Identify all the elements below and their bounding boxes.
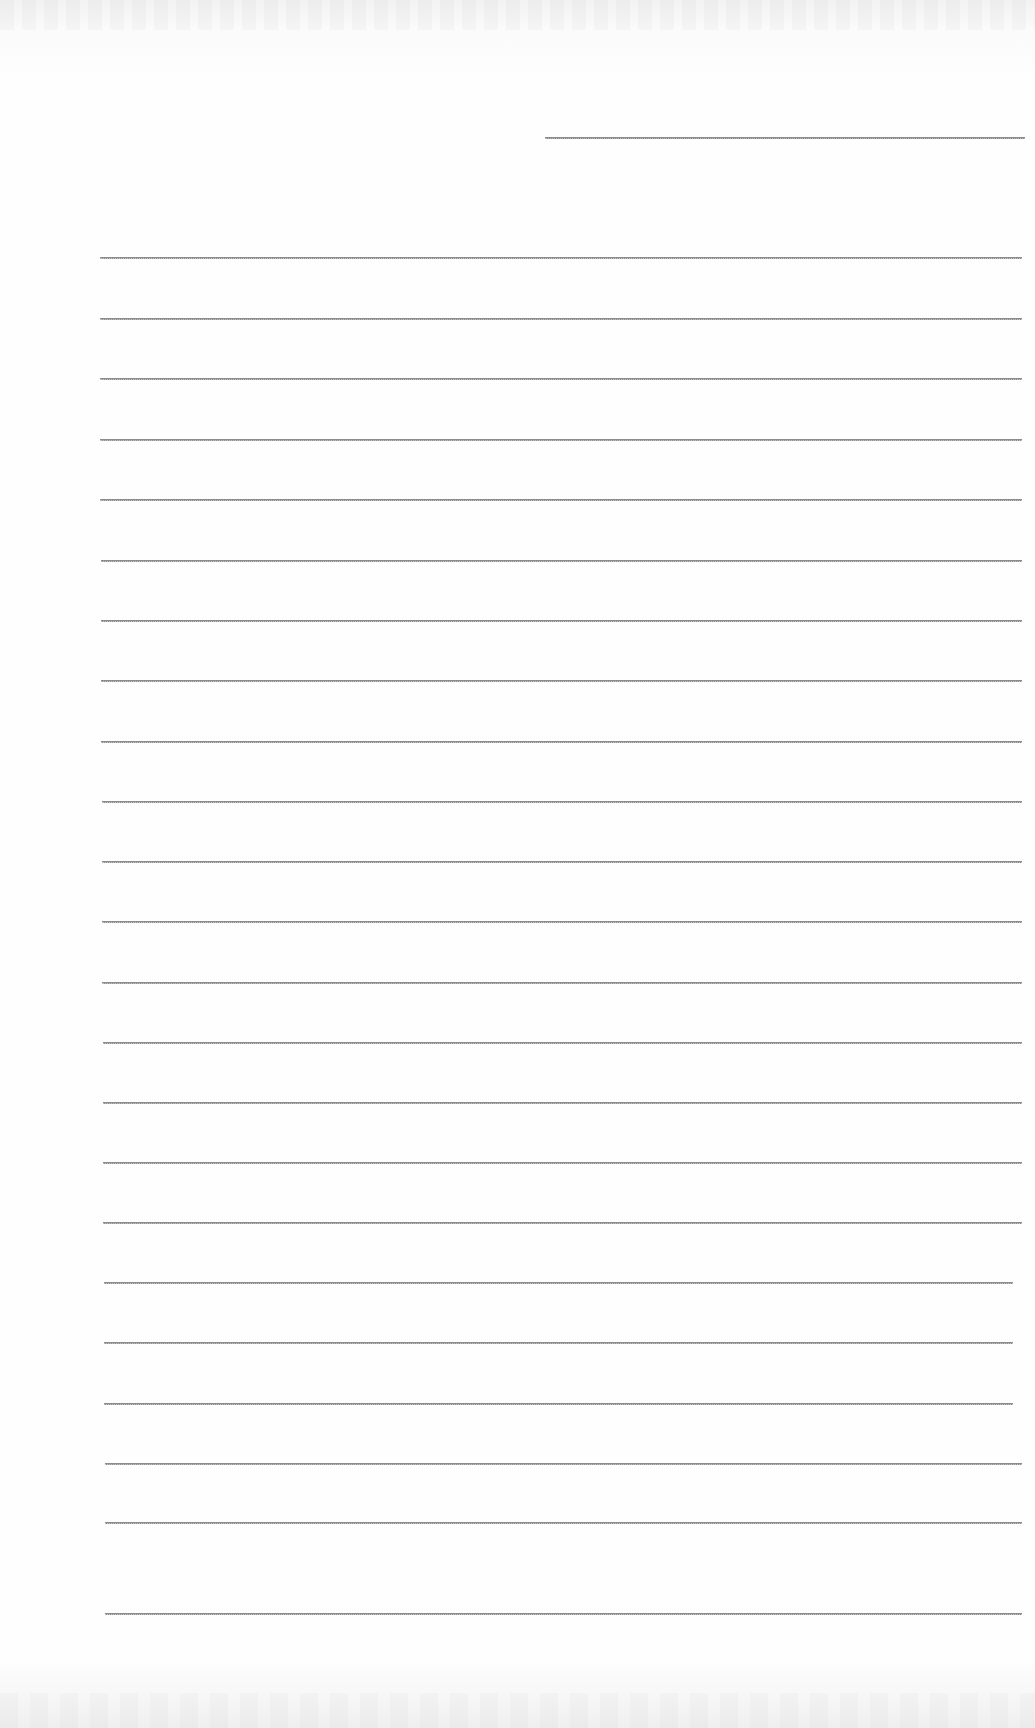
ruled-line (101, 741, 1022, 743)
ruled-line (100, 378, 1022, 380)
ruled-line (104, 1342, 1013, 1344)
lined-paper-page (0, 0, 1035, 1728)
header-field-line (545, 137, 1025, 139)
ruled-line (104, 1282, 1013, 1284)
ruled-line (100, 318, 1022, 320)
scan-bleed-top (0, 0, 1035, 30)
ruled-line (105, 1522, 1022, 1524)
ruled-line (101, 560, 1022, 562)
ruled-line (101, 680, 1022, 682)
ruled-line (104, 1403, 1013, 1405)
scan-bleed-bottom (0, 1693, 1035, 1728)
ruled-line (105, 1613, 1022, 1615)
ruled-line (103, 1222, 1022, 1224)
ruled-line (100, 499, 1022, 501)
ruled-line (103, 1042, 1022, 1044)
ruled-line (102, 921, 1022, 923)
ruled-line (102, 801, 1022, 803)
ruled-line (100, 257, 1022, 259)
ruled-line (103, 1162, 1022, 1164)
ruled-line (101, 620, 1022, 622)
ruled-line (100, 439, 1022, 441)
ruled-line (103, 1102, 1022, 1104)
ruled-line (102, 982, 1022, 984)
ruled-line (102, 861, 1022, 863)
ruled-line (105, 1463, 1022, 1465)
